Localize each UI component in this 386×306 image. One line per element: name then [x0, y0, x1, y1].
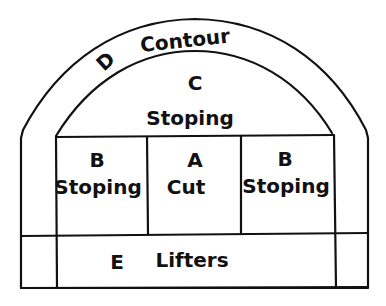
floor-line	[21, 287, 368, 288]
zone-b-right-name: Stoping	[242, 174, 329, 198]
zone-c-letter: C	[188, 71, 203, 95]
inner-right-wall	[334, 135, 336, 288]
spring-line	[56, 135, 334, 137]
zone-d-label: D Contour	[91, 24, 231, 76]
zone-b-right-letter: B	[277, 147, 292, 171]
cut-left-divider	[147, 137, 148, 234]
tunnel-face-diagram: D Contour C Stoping B Stoping A Cut B St…	[0, 0, 386, 306]
zone-a-letter: A	[187, 148, 203, 172]
zone-a-name: Cut	[167, 175, 206, 199]
zone-b-left-name: Stoping	[54, 175, 141, 199]
zone-d-letter: D	[91, 47, 119, 76]
zone-c-name: Stoping	[146, 106, 233, 130]
inner-left-wall	[56, 137, 57, 288]
zone-e-name: Lifters	[155, 248, 228, 272]
zone-e-letter: E	[110, 250, 124, 274]
zone-b-left-letter: B	[89, 148, 104, 172]
lifters-line	[21, 233, 368, 236]
